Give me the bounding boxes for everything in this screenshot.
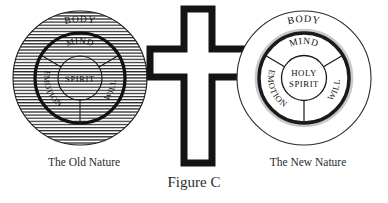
figure-caption: Figure C [0, 174, 388, 191]
new-label-spirit: SPIRIT [289, 79, 319, 89]
diagram-new-nature: BODY MIND EMOTION WILL HOLY SPIRIT [228, 6, 388, 166]
caption-new-nature: The New Nature [228, 156, 388, 168]
new-label-holy: HOLY [291, 68, 317, 78]
caption-old-nature: The Old Nature [4, 156, 164, 168]
figure-canvas: BODY MIND EMOTION WILL SPIRIT The Old Na… [0, 0, 388, 203]
diagram-old-nature: BODY MIND EMOTION WILL SPIRIT [4, 6, 164, 166]
old-label-spirit: SPIRIT [65, 74, 95, 84]
